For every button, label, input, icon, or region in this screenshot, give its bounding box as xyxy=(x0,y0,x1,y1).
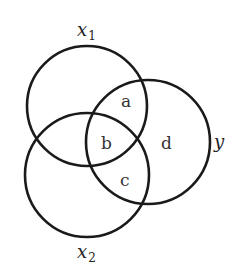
region-label-d: d xyxy=(161,133,172,153)
region-label-c: c xyxy=(120,170,130,190)
set-label-x1: x1 xyxy=(77,19,96,43)
region-label-b: b xyxy=(101,133,112,153)
venn-diagram: x1 x2 y a b c d xyxy=(0,0,243,275)
set-label-x2: x2 xyxy=(77,241,96,265)
region-label-a: a xyxy=(121,91,131,111)
set-label-y: y xyxy=(213,131,225,152)
